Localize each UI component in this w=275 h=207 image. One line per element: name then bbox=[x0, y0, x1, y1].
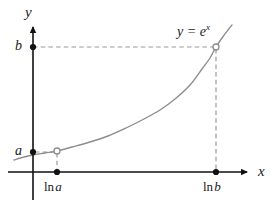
y-axis-label: y bbox=[25, 5, 32, 20]
x-tick-label-ln-a: lna bbox=[44, 180, 62, 193]
figure-canvas bbox=[0, 0, 275, 207]
guide-lines-group bbox=[33, 47, 216, 171]
curve-equation-label: y = ex bbox=[177, 23, 210, 39]
x-tick-marker-lnb bbox=[213, 169, 219, 175]
x-tick-label-ln-b: lnb bbox=[203, 180, 221, 193]
x-tick-marker-lna bbox=[54, 169, 60, 175]
axis-tick-markers-group bbox=[30, 44, 219, 175]
y-tick-label-a: a bbox=[15, 144, 22, 158]
exponential-graph-figure: y x b a lna lnb y = ex bbox=[0, 0, 275, 207]
x-axis-label: x bbox=[258, 164, 265, 179]
curve-point-marker-ln-b bbox=[213, 44, 219, 50]
y-tick-marker-b bbox=[30, 44, 36, 50]
axes-group bbox=[8, 27, 247, 200]
x-tick-label-ln-a-argument: a bbox=[55, 179, 62, 194]
exponential-curve bbox=[14, 25, 232, 160]
curve-point-marker-ln-a bbox=[54, 148, 60, 154]
curve-point-markers-group bbox=[54, 44, 219, 154]
x-tick-label-ln-b-function: ln bbox=[203, 179, 213, 194]
curve-equation-exponent: x bbox=[206, 22, 210, 32]
exponential-curve-group bbox=[14, 25, 232, 160]
x-tick-label-ln-b-argument: b bbox=[214, 179, 221, 194]
y-tick-marker-a bbox=[30, 149, 36, 155]
y-tick-label-b: b bbox=[15, 39, 22, 53]
curve-equation-base: y = e bbox=[177, 24, 206, 39]
x-tick-label-ln-a-function: ln bbox=[44, 179, 54, 194]
